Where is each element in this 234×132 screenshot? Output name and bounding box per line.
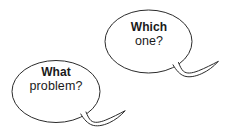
bubble-which-one-line2: one?	[105, 35, 193, 49]
bubble-which-one-text: Which one?	[105, 21, 193, 48]
bubble-what-problem-line2: problem?	[12, 80, 100, 94]
bubble-which-one-line1: Which	[105, 21, 193, 34]
bubble-what-problem-line1: What	[12, 66, 100, 79]
speech-bubble-illustration: Which one? What problem?	[0, 0, 234, 132]
bubble-what-problem-text: What problem?	[12, 66, 100, 93]
